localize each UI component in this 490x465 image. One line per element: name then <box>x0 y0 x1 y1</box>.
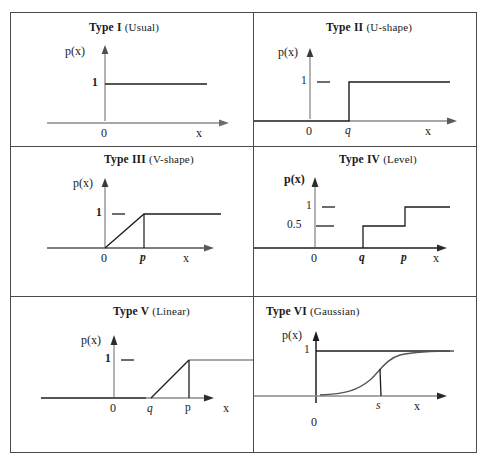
panel-type-1: Type I (Usual) p(x) 1 0 x <box>11 13 254 147</box>
plot-svg-type-1 <box>11 13 254 147</box>
x-tick-p: p <box>140 252 146 264</box>
origin-label: 0 <box>311 416 317 428</box>
panel-type-4: Type IV (Level) p(x) 1 <box>254 147 476 297</box>
panel-type-5: Type V (Linear) <box>11 297 254 452</box>
y-axis-arrowhead <box>111 335 118 345</box>
marker-line-s <box>380 369 381 396</box>
y-tick-1: 1 <box>96 207 102 219</box>
x-axis-label: x <box>433 252 439 264</box>
curve-ramp <box>105 214 221 248</box>
y-axis-label: p(x) <box>282 329 302 341</box>
y-axis-arrowhead <box>307 48 314 57</box>
plot-svg-type-6 <box>254 297 476 452</box>
y-tick-1: 1 <box>306 200 312 212</box>
x-axis-label: x <box>223 402 229 414</box>
y-axis-arrowhead <box>312 177 319 187</box>
x-axis-label: x <box>196 127 202 139</box>
y-axis-label: p(x) <box>65 45 85 57</box>
x-tick-q: q <box>345 125 351 137</box>
x-axis-arrowhead <box>437 393 447 400</box>
plot-type-1: p(x) 1 0 x <box>11 13 253 146</box>
plot-type-3: p(x) 1 0 p x <box>11 147 253 296</box>
x-axis-label: x <box>425 125 431 137</box>
panel-type-2: Type II (U-shape) p(x) 1 0 <box>254 13 476 147</box>
plot-type-6: p(x) 1 s x 0 <box>254 297 476 452</box>
origin-label: 0 <box>311 252 317 264</box>
panel-type-6: Type VI (Gaussian) p <box>254 297 476 452</box>
x-tick-s: s <box>376 400 380 412</box>
x-axis-arrowhead <box>204 395 214 402</box>
curve-sigmoid <box>320 351 454 395</box>
y-axis-label: p(x) <box>81 334 101 346</box>
x-tick-q: q <box>147 403 153 415</box>
plot-svg-type-5 <box>11 297 254 452</box>
origin-label: 0 <box>306 125 312 137</box>
y-axis-label: p(x) <box>284 173 305 185</box>
plot-svg-type-2 <box>254 13 476 147</box>
origin-label: 0 <box>101 127 107 139</box>
x-axis-label: x <box>183 252 189 264</box>
y-axis-arrowhead <box>102 45 109 54</box>
curve-step <box>254 82 450 121</box>
y-tick-1: 1 <box>301 75 307 87</box>
y-tick-1: 1 <box>105 353 111 365</box>
y-axis-arrowhead <box>102 178 109 187</box>
origin-label: 0 <box>110 402 116 414</box>
curve-staircase <box>363 207 450 248</box>
x-tick-p: p <box>401 252 407 264</box>
plot-svg-type-3 <box>11 147 254 297</box>
plot-type-5: p(x) 1 0 q p x <box>11 297 253 452</box>
y-axis-label: p(x) <box>278 46 298 58</box>
y-axis-arrowhead <box>313 331 320 341</box>
membership-function-grid: Type I (Usual) p(x) 1 0 x <box>10 12 477 453</box>
plot-type-2: p(x) 1 0 q x <box>254 13 476 146</box>
x-tick-q: q <box>359 252 365 264</box>
x-tick-p: p <box>185 402 191 414</box>
figure-canvas: Type I (Usual) p(x) 1 0 x <box>0 0 490 465</box>
x-axis-arrowhead <box>219 120 229 127</box>
plot-type-4: p(x) 1 0.5 0 q p x <box>254 147 476 296</box>
x-axis-label: x <box>414 400 420 412</box>
x-axis-arrowhead <box>447 118 457 125</box>
y-tick-05: 0.5 <box>287 219 301 231</box>
x-axis-arrowhead <box>204 245 214 252</box>
panel-type-3: Type III (V-shape) p <box>11 147 254 297</box>
y-tick-1: 1 <box>304 344 310 356</box>
y-axis-label: p(x) <box>73 177 93 189</box>
y-tick-1: 1 <box>92 77 98 89</box>
origin-label: 0 <box>101 252 107 264</box>
curve-ramp <box>151 360 189 398</box>
